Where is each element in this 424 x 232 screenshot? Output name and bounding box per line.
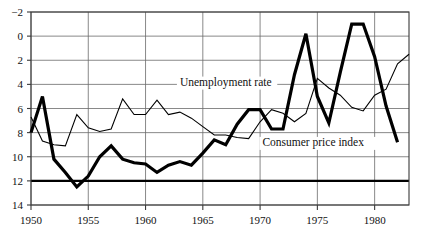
y-tick-label: 10	[12, 151, 24, 163]
x-tick-label: 1960	[135, 214, 158, 226]
y-tick-label: 4	[18, 78, 24, 90]
x-tick-label: 1975	[306, 214, 329, 226]
y-tick-label: 14	[12, 199, 24, 211]
y-tick-label: 8	[18, 127, 24, 139]
series-annotation-1: Unemployment rate	[180, 76, 272, 89]
series-annotation-2: Consumer price index	[262, 136, 364, 149]
y-tick-label: 12	[12, 175, 23, 187]
chart-container: 14121086420−2 19501955196019651970197519…	[0, 0, 424, 232]
y-tick-label: 0	[18, 30, 24, 42]
y-tick-label: −2	[11, 6, 23, 18]
x-tick-label: 1980	[364, 214, 387, 226]
y-tick-label: 6	[18, 103, 24, 115]
x-tick-label: 1965	[192, 214, 215, 226]
x-tick-label: 1970	[249, 214, 272, 226]
x-tick-label: 1950	[20, 214, 43, 226]
y-tick-label: 2	[18, 54, 24, 66]
x-tick-label: 1955	[77, 214, 100, 226]
line-chart: 14121086420−2 19501955196019651970197519…	[0, 0, 424, 232]
chart-background	[0, 0, 424, 232]
